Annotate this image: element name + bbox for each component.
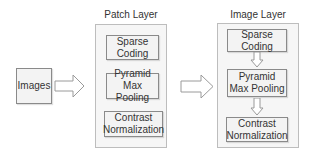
- patch-pyramid-max-pooling-block: Pyramid Max Pooling: [106, 73, 159, 99]
- image-contrast-normalization-block: Contrast Normalization: [226, 117, 288, 142]
- down-arrow-icon: [250, 52, 264, 68]
- patch-sparse-coding-block: Sparse Coding: [106, 35, 159, 60]
- block-label: Sparse Coding: [228, 29, 286, 53]
- block-label: Pyramid Max Pooling: [107, 68, 158, 104]
- block-label: Contrast Normalization: [226, 118, 287, 142]
- right-arrow-icon: [180, 74, 214, 99]
- right-arrow-icon: [54, 74, 85, 98]
- patch-contrast-normalization-block: Contrast Normalization: [104, 111, 163, 137]
- down-arrow-icon: [250, 98, 264, 116]
- image-sparse-coding-block: Sparse Coding: [227, 29, 287, 52]
- block-label: Pyramid Max Pooling: [228, 71, 286, 95]
- images-input-box: Images: [16, 68, 52, 104]
- block-label: Sparse Coding: [107, 36, 158, 60]
- images-label: Images: [18, 80, 51, 92]
- image-pyramid-max-pooling-block: Pyramid Max Pooling: [227, 69, 287, 97]
- patch-layer-title: Patch Layer: [95, 9, 167, 20]
- image-layer-title: Image Layer: [217, 9, 299, 20]
- block-label: Contrast Normalization: [103, 112, 164, 136]
